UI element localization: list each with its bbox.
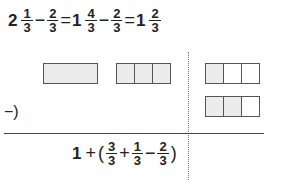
equals-sign: = — [60, 10, 71, 31]
whole-bar — [43, 63, 98, 84]
thirds-bar-one — [205, 63, 260, 84]
minus-sign: − — [99, 10, 110, 31]
bar-cell-shaded — [206, 64, 224, 83]
bar-cell-shaded — [44, 64, 97, 83]
fraction: 3 3 — [106, 140, 117, 167]
minus-sign: − — [145, 143, 156, 164]
fraction: 1 3 — [21, 7, 32, 34]
bar-cell-empty — [242, 64, 259, 83]
subtraction-marker: −) — [4, 103, 19, 121]
bar-cell-shaded — [224, 97, 242, 116]
mixed-whole: 1 — [72, 11, 81, 31]
bar-cell-shaded — [117, 64, 135, 83]
fraction: 2 3 — [111, 7, 122, 34]
fraction: 1 3 — [132, 140, 143, 167]
plus-sign: + — [85, 143, 96, 164]
plus-sign: + — [119, 143, 130, 164]
bar-cell-empty — [242, 97, 259, 116]
fraction: 2 3 — [149, 7, 160, 34]
bar-cell-shaded — [153, 64, 170, 83]
bar-cell-empty — [224, 64, 242, 83]
open-paren: ( — [98, 143, 104, 164]
bar-cell-shaded — [135, 64, 153, 83]
mixed-whole: 2 — [8, 11, 17, 31]
equals-sign: = — [124, 10, 135, 31]
dotted-divider — [188, 52, 189, 180]
thirds-bar-full — [116, 63, 171, 84]
thirds-bar-two — [205, 96, 260, 117]
minus-sign: − — [35, 10, 46, 31]
fraction: 4 3 — [85, 7, 96, 34]
bottom-expression: 1 + ( 3 3 + 1 3 − 2 3 ) — [72, 140, 178, 167]
close-paren: ) — [171, 143, 177, 164]
top-equation: 2 1 3 − 2 3 = 1 4 3 − 2 3 = 1 2 3 — [8, 7, 162, 34]
fraction: 2 3 — [47, 7, 58, 34]
bar-cell-shaded — [206, 97, 224, 116]
result-line — [4, 133, 264, 134]
fraction: 2 3 — [157, 140, 168, 167]
mixed-whole: 1 — [136, 11, 145, 31]
whole-number: 1 — [72, 144, 81, 164]
